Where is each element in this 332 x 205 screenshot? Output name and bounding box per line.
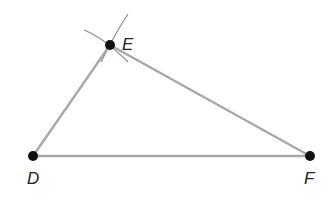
point-e bbox=[105, 40, 115, 50]
segment-ef bbox=[110, 45, 310, 156]
label-e: E bbox=[122, 35, 134, 54]
triangle-diagram: D E F bbox=[0, 0, 332, 205]
segment-de bbox=[33, 45, 110, 156]
label-d: D bbox=[27, 169, 39, 188]
point-d bbox=[28, 151, 38, 161]
label-f: F bbox=[304, 169, 316, 188]
point-f bbox=[305, 151, 315, 161]
